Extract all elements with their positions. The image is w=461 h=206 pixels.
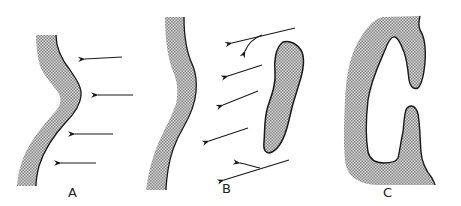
panel-a: A (17, 35, 133, 200)
body-b (264, 41, 304, 152)
panel-label-c: C (383, 185, 392, 200)
arrow-b-2 (228, 65, 262, 76)
panel-b: B (146, 17, 303, 196)
arrow-b-3 (223, 91, 258, 105)
panel-label-a: A (68, 185, 77, 200)
panel-c: C (344, 16, 435, 200)
arrow-a-1 (85, 57, 122, 59)
arrow-b-4 (209, 128, 248, 141)
arrow-b-bottom (224, 160, 289, 180)
panel-label-b: B (222, 181, 231, 196)
diagram-figure: A B C (0, 0, 461, 206)
wall-b (146, 17, 196, 190)
arrow-b-bottom-deflected (240, 163, 260, 168)
arrow-b-top (232, 28, 295, 43)
